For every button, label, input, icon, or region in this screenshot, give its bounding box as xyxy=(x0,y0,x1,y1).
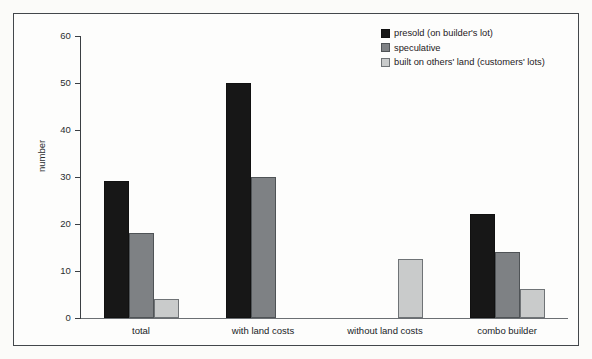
chart-page: number 6050403020100 totalwith land cost… xyxy=(0,0,592,359)
x-axis-line xyxy=(80,318,568,319)
y-axis-tick xyxy=(75,271,81,272)
y-axis-tick xyxy=(75,36,81,37)
y-axis-title: number xyxy=(36,140,47,172)
legend-label: speculative xyxy=(394,43,441,53)
legend-label: presold (on builder's lot) xyxy=(394,28,493,38)
bar xyxy=(104,181,129,317)
x-axis-category-label: with land costs xyxy=(202,325,324,336)
y-axis-tick-label: 10 xyxy=(38,265,71,277)
y-axis-tick-label: 50 xyxy=(38,77,71,89)
bar xyxy=(251,177,276,318)
legend-swatch-icon xyxy=(381,58,390,67)
bar xyxy=(226,83,251,318)
y-axis-tick xyxy=(75,318,81,319)
legend-label: built on others' land (customers' lots) xyxy=(394,57,545,67)
bar xyxy=(495,252,520,318)
chart-legend: presold (on builder's lot)speculativebui… xyxy=(381,28,545,72)
y-axis-tick-label: 30 xyxy=(38,171,71,183)
legend-swatch-icon xyxy=(381,29,390,38)
x-axis-category-label: combo builder xyxy=(446,325,568,336)
bar xyxy=(470,214,495,317)
y-axis-tick xyxy=(75,224,81,225)
y-axis-tick-value: 30 xyxy=(60,171,71,182)
y-axis-tick-value: 0 xyxy=(66,312,71,323)
y-axis-tick-label: 40 xyxy=(38,124,71,136)
bar-group xyxy=(226,36,301,318)
legend-item: built on others' land (customers' lots) xyxy=(381,57,545,67)
legend-item: speculative xyxy=(381,43,545,53)
y-axis-tick-label: 0 xyxy=(38,312,71,324)
bar xyxy=(520,289,545,317)
bar xyxy=(154,299,179,318)
legend-swatch-icon xyxy=(381,43,390,52)
bar xyxy=(398,259,423,318)
x-axis-category-label: without land costs xyxy=(324,325,446,336)
y-axis-tick-value: 10 xyxy=(60,265,71,276)
chart-frame: number 6050403020100 totalwith land cost… xyxy=(13,13,579,346)
y-axis-tick xyxy=(75,177,81,178)
x-axis-category-label: total xyxy=(80,325,202,336)
legend-item: presold (on builder's lot) xyxy=(381,28,545,38)
y-axis-tick-label: 20 xyxy=(38,218,71,230)
bar-group xyxy=(470,36,545,318)
bar-group xyxy=(348,36,423,318)
y-axis-tick-value: 60 xyxy=(60,30,71,41)
y-axis-tick-value: 40 xyxy=(60,124,71,135)
bar xyxy=(129,233,154,317)
y-axis-tick-value: 20 xyxy=(60,218,71,229)
y-axis-tick-value: 50 xyxy=(60,77,71,88)
y-axis-tick-label: 60 xyxy=(38,30,71,42)
bar-group xyxy=(104,36,179,318)
y-axis-tick xyxy=(75,130,81,131)
y-axis-tick xyxy=(75,83,81,84)
